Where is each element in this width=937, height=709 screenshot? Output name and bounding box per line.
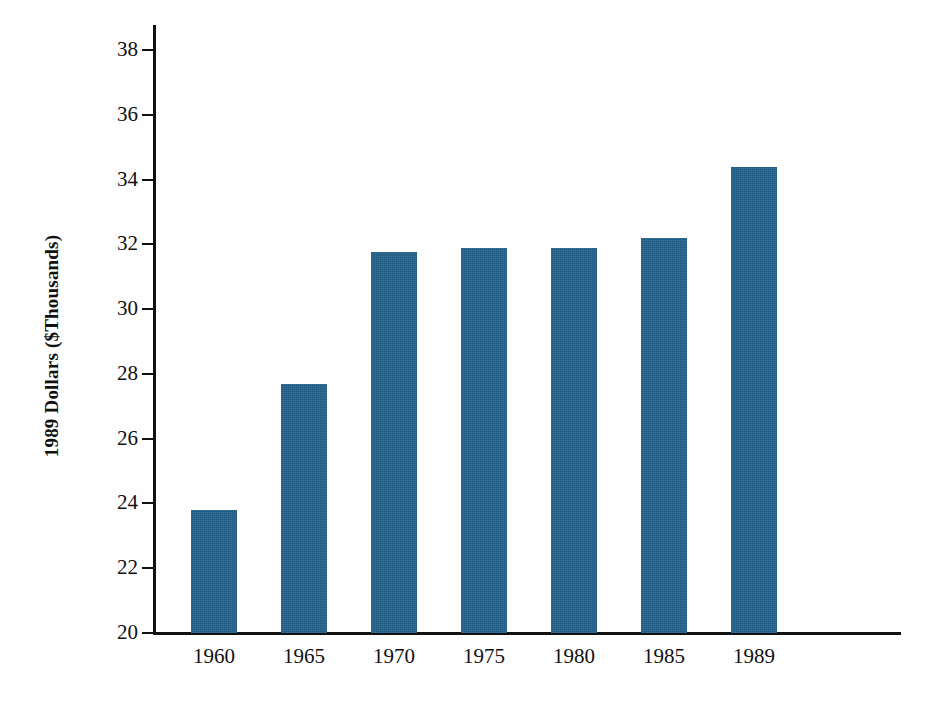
- y-axis-tick: [142, 373, 154, 375]
- y-axis-tick-labels: 38363432302826242220: [68, 0, 138, 709]
- x-axis-tick-label: 1970: [349, 645, 439, 668]
- x-axis-tick-label: 1989: [709, 645, 799, 668]
- y-axis-tick: [142, 243, 154, 245]
- x-axis-tick-labels: 1960196519701975198019851989: [155, 645, 900, 685]
- x-axis-tick-label: 1960: [169, 645, 259, 668]
- bars-layer: [155, 50, 900, 633]
- y-axis-tick: [142, 308, 154, 310]
- y-axis-tick: [142, 502, 154, 504]
- y-axis-tick-label: 28: [78, 363, 138, 384]
- x-axis-tick-label: 1965: [259, 645, 349, 668]
- y-axis-tick-label: 30: [78, 298, 138, 319]
- y-axis-tick-label: 20: [78, 622, 138, 643]
- y-axis-tick: [142, 114, 154, 116]
- bar: [371, 252, 417, 633]
- y-axis-tick-label: 34: [78, 169, 138, 190]
- x-axis-tick-label: 1985: [619, 645, 709, 668]
- y-axis-tick: [142, 438, 154, 440]
- y-axis-tick: [142, 632, 154, 634]
- y-axis-tick-label: 24: [78, 492, 138, 513]
- bar: [281, 384, 327, 633]
- x-axis-tick-label: 1975: [439, 645, 529, 668]
- bar: [641, 238, 687, 633]
- bar-chart-figure: 1989 Dollars ($Thousands) 38363432302826…: [0, 0, 937, 709]
- y-axis-tick-label: 32: [78, 233, 138, 254]
- y-axis-tick: [142, 179, 154, 181]
- x-axis-tick-label: 1980: [529, 645, 619, 668]
- y-axis-tick: [142, 49, 154, 51]
- y-axis-tick-label: 36: [78, 104, 138, 125]
- y-axis-tick-label: 26: [78, 428, 138, 449]
- y-axis-title: 1989 Dollars ($Thousands): [41, 186, 63, 506]
- y-axis-tick-label: 22: [78, 557, 138, 578]
- bar: [461, 248, 507, 633]
- y-axis-tick-label: 38: [78, 39, 138, 60]
- y-axis-tick: [142, 567, 154, 569]
- bar: [731, 167, 777, 633]
- bar: [551, 248, 597, 633]
- bar: [191, 510, 237, 633]
